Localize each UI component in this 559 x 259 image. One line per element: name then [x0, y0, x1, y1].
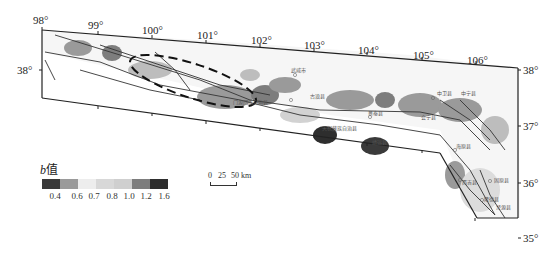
lon-label-102: 102°	[251, 35, 272, 46]
place-label: 古浪县	[310, 92, 325, 99]
lon-label-103: 103°	[304, 40, 325, 51]
place-label: 海原县	[456, 142, 471, 149]
lat-label-37: 37°	[523, 121, 538, 132]
lat-label-left-38: 38°	[17, 65, 32, 76]
colorbar-label: 0.7	[88, 191, 99, 201]
place-label: 固原县	[494, 176, 509, 183]
colorbar-label: 0.6	[71, 191, 82, 201]
colorbar-swatch	[150, 179, 168, 189]
place-label: 泾源县	[496, 203, 511, 210]
colorbar-label: 1.0	[123, 191, 134, 201]
colorbar-label: 0.4	[49, 191, 60, 201]
lon-label-100: 100°	[142, 25, 163, 36]
lon-label-99: 99°	[88, 20, 103, 31]
colorbar-swatch	[114, 179, 132, 189]
place-label: 隆德县	[484, 195, 499, 202]
place-label: 景泰县	[368, 109, 383, 116]
place-label: 武威市	[291, 66, 306, 73]
scale-label-25: 25	[218, 171, 226, 180]
colorbar-label: 1.6	[158, 191, 169, 201]
lon-label-104: 104°	[358, 45, 379, 56]
colorbar-swatch	[96, 179, 114, 189]
lon-label-101: 101°	[197, 30, 218, 41]
place-label: 中卫县	[437, 89, 452, 96]
place-label: 天祝藏族自治县	[322, 124, 357, 131]
place-label: 中宁县	[461, 89, 476, 96]
lat-label-36: 36°	[523, 178, 538, 189]
lat-label-35: 35°	[523, 233, 538, 244]
legend-title: b值	[40, 160, 58, 178]
colorbar-swatch	[42, 179, 60, 189]
place-label: 靖远县	[372, 138, 387, 145]
lat-label-38: 38°	[523, 65, 538, 76]
colorbar-label: 1.2	[140, 191, 151, 201]
lon-label-98: 98°	[33, 15, 48, 26]
scale-label-0: 0	[208, 171, 212, 180]
scale-label-50km: 50 km	[231, 171, 251, 180]
place-label: 门源回族自治县	[233, 98, 268, 105]
colorbar-swatch	[60, 179, 78, 189]
colorbar-label: 0.8	[106, 191, 117, 201]
place-label: 会宁县	[421, 113, 436, 120]
lon-label-106: 106°	[467, 55, 488, 66]
scale-bar-line	[210, 182, 237, 186]
map-canvas	[0, 0, 559, 259]
b-value-map: 98° 99° 100° 101° 102° 103° 104° 105° 10…	[0, 0, 559, 259]
lon-label-105: 105°	[413, 50, 434, 61]
colorbar-swatch	[132, 179, 150, 189]
colorbar-swatch	[78, 179, 96, 189]
place-label: 西吉县	[462, 178, 477, 185]
colorbar	[42, 179, 168, 189]
